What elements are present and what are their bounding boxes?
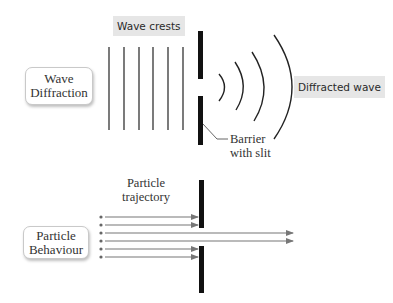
wave-diffraction-title-line2: Diffraction xyxy=(30,86,88,100)
particle-trajectory-label-line2: trajectory xyxy=(110,190,182,204)
lower-barrier xyxy=(199,180,204,293)
barrier-label: Barrier with slit xyxy=(230,132,271,160)
barrier-bottom-segment xyxy=(198,96,203,145)
particle-trajectory-label-line1: Particle xyxy=(110,176,182,190)
barrier-label-line2: with slit xyxy=(230,146,271,160)
particles xyxy=(99,215,102,258)
diffracted-arc xyxy=(274,35,292,139)
particle-behaviour-title-line2: Behaviour xyxy=(29,243,83,257)
diffracted-arc xyxy=(252,52,264,121)
particle-dot xyxy=(99,255,102,258)
particle-dot xyxy=(99,231,102,234)
diffracted-wave-label-text: Diffracted wave xyxy=(298,81,381,93)
wave-diffraction-box: Wave Diffraction xyxy=(25,67,93,105)
wave-crests-label: Wave crests xyxy=(113,16,185,36)
particle-behaviour-title-line1: Particle xyxy=(36,229,76,243)
particle-trajectory-label: Particle trajectory xyxy=(110,176,182,204)
wave-diffraction-title-line1: Wave xyxy=(44,72,73,86)
particle-dot xyxy=(99,223,102,226)
barrier-pointer-line xyxy=(203,124,228,139)
barrier-bottom-segment xyxy=(199,246,204,293)
particle-behaviour-box: Particle Behaviour xyxy=(23,226,89,259)
upper-barrier xyxy=(198,31,203,145)
diffracted-wave-label: Diffracted wave xyxy=(294,76,385,98)
diffracted-arc xyxy=(235,62,243,110)
wave-crests-label-text: Wave crests xyxy=(117,20,181,32)
wave-crests xyxy=(109,47,183,130)
barrier-top-segment xyxy=(199,180,204,228)
barrier-label-line1: Barrier xyxy=(230,132,271,146)
diagram: Wave crests Wave Diffraction Diffracted … xyxy=(0,0,393,303)
diffracted-arcs xyxy=(219,35,292,139)
particle-dot xyxy=(99,239,102,242)
barrier-top-segment xyxy=(198,31,203,79)
particle-dot xyxy=(99,215,102,218)
particle-dot xyxy=(99,247,102,250)
diffracted-arc xyxy=(219,74,225,101)
